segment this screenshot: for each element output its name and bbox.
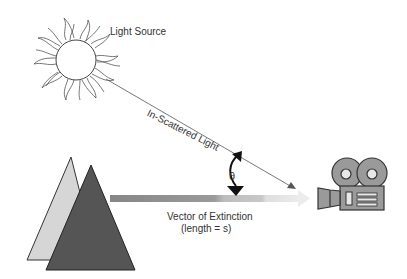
vector-length-label: (length = s)	[181, 224, 231, 234]
gradient-arrow-icon	[110, 190, 310, 207]
movie-camera-icon	[318, 158, 387, 210]
scattering-diagram: Light Source In-Scattered Light θ Vector…	[0, 0, 407, 279]
vector-of-extinction-label: Vector of Extinction	[167, 212, 253, 222]
theta-angle-label: θ	[229, 171, 235, 182]
light-source-label: Light Source	[110, 27, 166, 37]
sun-icon	[34, 18, 120, 100]
